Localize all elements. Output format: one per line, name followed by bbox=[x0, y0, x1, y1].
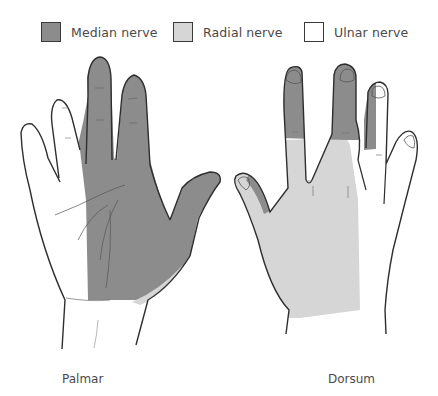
palmar-caption: Palmar bbox=[62, 372, 103, 386]
hands-illustration bbox=[0, 0, 438, 396]
dorsum-caption: Dorsum bbox=[328, 372, 375, 386]
dorsum-hand bbox=[230, 55, 417, 334]
palmar-hand bbox=[20, 40, 230, 349]
